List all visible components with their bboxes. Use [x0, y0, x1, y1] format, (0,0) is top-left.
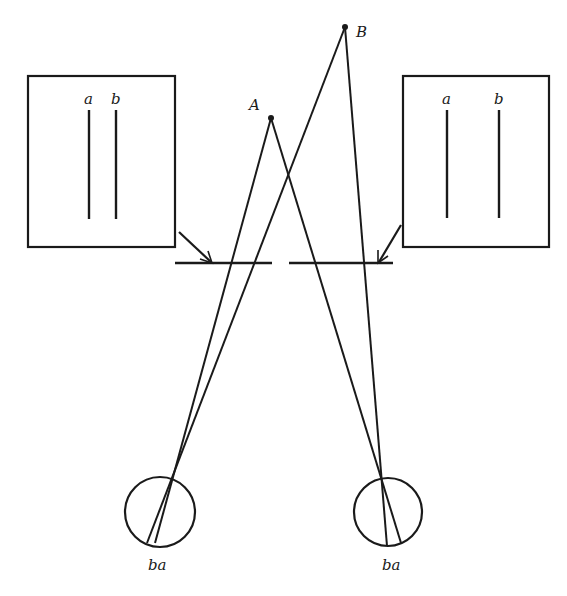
- left-eye-icon: [125, 477, 195, 547]
- point-A: [268, 115, 274, 121]
- right-label-b: b: [494, 90, 504, 108]
- right-eye-sightline-B: [345, 27, 387, 546]
- point-A-label: A: [247, 96, 260, 114]
- point-B-label: B: [355, 23, 367, 41]
- left-retina-label: ba: [148, 556, 167, 574]
- point-B: [342, 24, 348, 30]
- right-eye-icon: [354, 478, 422, 546]
- left-eye-sightline-B: [147, 27, 345, 543]
- left-label-b: b: [111, 90, 121, 108]
- right-pointer-arrow-icon: [378, 225, 401, 263]
- left-view-panel: a b: [28, 76, 175, 247]
- left-pointer-arrow-icon: [179, 232, 212, 263]
- left-label-a: a: [84, 90, 93, 108]
- right-view-panel: a b: [403, 76, 549, 247]
- right-retina-label: ba: [382, 556, 401, 574]
- right-label-a: a: [442, 90, 451, 108]
- stereoscopic-vision-diagram: a b a b A B ba ba: [0, 0, 567, 596]
